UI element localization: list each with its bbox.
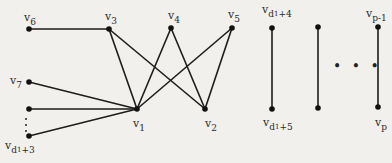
vertex-vp1 bbox=[375, 24, 381, 30]
vertex-vp bbox=[375, 104, 381, 110]
nodes bbox=[26, 24, 381, 139]
label-vd1plus3: vd1+3 bbox=[5, 140, 35, 151]
vertex-vd15 bbox=[269, 106, 275, 112]
vertex-v6 bbox=[26, 26, 32, 32]
label-v2: v2 bbox=[205, 118, 217, 129]
edge-vd13-v1 bbox=[29, 109, 137, 136]
label-vp-1: vp-1 bbox=[366, 8, 387, 19]
vertex-vm2 bbox=[315, 105, 321, 111]
vertex-vm1 bbox=[315, 24, 321, 30]
vertex-v5 bbox=[229, 25, 235, 31]
vertex-v1 bbox=[134, 106, 140, 112]
edge-v4-v1 bbox=[137, 28, 171, 109]
graph-diagram: v6 v3 v4 v5 v7 vd1+3 v1 v2 vd1+4 vd1+5 v… bbox=[0, 0, 392, 163]
vertex-v4 bbox=[168, 25, 174, 31]
label-v3: v3 bbox=[105, 11, 117, 22]
label-vd1plus4: vd1+4 bbox=[262, 4, 292, 15]
label-v1: v1 bbox=[133, 118, 145, 129]
vertex-v7 bbox=[26, 79, 32, 85]
vertical-ellipsis bbox=[25, 118, 28, 136]
vertex-vd14 bbox=[269, 25, 275, 31]
vertex-vx bbox=[26, 106, 32, 112]
vertex-v3 bbox=[106, 26, 112, 32]
label-v4: v4 bbox=[168, 10, 180, 21]
label-v7: v7 bbox=[10, 75, 22, 86]
vertex-v2 bbox=[202, 106, 208, 112]
graph-edges-and-nodes bbox=[0, 0, 392, 163]
label-v6: v6 bbox=[24, 12, 36, 23]
horizontal-ellipsis: • • • bbox=[333, 58, 382, 74]
label-vd1plus5: vd1+5 bbox=[263, 117, 293, 128]
edge-v4-v2 bbox=[171, 28, 205, 109]
label-vp: vp bbox=[375, 117, 387, 128]
edge-v7-v1 bbox=[29, 82, 137, 109]
label-v5: v5 bbox=[228, 9, 240, 20]
edges bbox=[29, 27, 378, 136]
